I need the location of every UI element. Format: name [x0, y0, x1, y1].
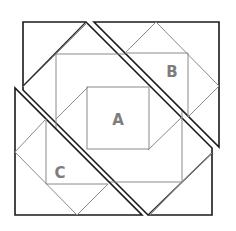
label-a: A [112, 111, 124, 129]
quilt-block-diagram: A B C [0, 0, 236, 231]
label-b: B [166, 63, 177, 81]
label-c: C [54, 164, 65, 182]
diagram-canvas: A B C [0, 0, 236, 231]
